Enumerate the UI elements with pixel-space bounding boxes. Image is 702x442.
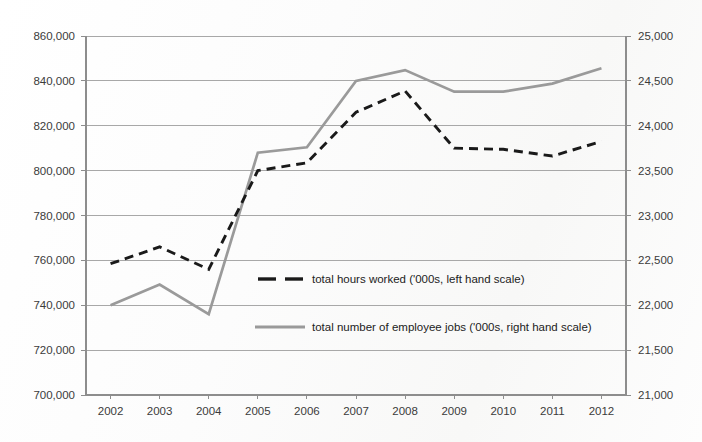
left-axis-tick-labels: 700,000720,000740,000760,000780,000800,0… — [33, 30, 75, 401]
x-axis-tick-label: 2008 — [392, 405, 418, 417]
x-axis-tick-label: 2012 — [589, 405, 615, 417]
x-axis-tick-label: 2002 — [98, 405, 124, 417]
left-axis-tick-label: 800,000 — [33, 165, 75, 177]
right-axis-tick-label: 25,000 — [638, 30, 673, 42]
legend-label-employee-jobs: total number of employee jobs ('000s, ri… — [312, 321, 592, 333]
x-axis-tick-label: 2006 — [294, 405, 320, 417]
left-axis-tick-label: 840,000 — [33, 75, 75, 87]
left-axis-tick-label: 780,000 — [33, 210, 75, 222]
x-axis-tick-label: 2004 — [196, 405, 222, 417]
right-axis-tick-label: 24,000 — [638, 120, 673, 132]
gridlines — [86, 36, 626, 395]
left-axis-tick-label: 700,000 — [33, 389, 75, 401]
right-axis-tick-label: 22,500 — [638, 254, 673, 266]
right-axis-tick-label: 22,000 — [638, 299, 673, 311]
x-axis-tick-label: 2009 — [441, 405, 467, 417]
right-axis-tick-label: 24,500 — [638, 75, 673, 87]
right-axis-tick-label: 23,000 — [638, 210, 673, 222]
series-line-hours-worked — [111, 91, 602, 269]
x-axis-tick-label: 2011 — [540, 405, 565, 417]
axis-tick-marks — [81, 36, 631, 399]
left-axis-tick-label: 740,000 — [33, 299, 75, 311]
x-axis-tick-label: 2007 — [343, 405, 369, 417]
x-axis-tick-label: 2003 — [147, 405, 173, 417]
x-axis-tick-label: 2005 — [245, 405, 271, 417]
dual-axis-line-chart: 700,000720,000740,000760,000780,000800,0… — [0, 0, 702, 442]
legend-label-hours-worked: total hours worked ('000s, left hand sca… — [312, 273, 525, 285]
x-axis-tick-label: 2010 — [490, 405, 516, 417]
right-axis-tick-label: 21,000 — [638, 389, 673, 401]
left-axis-tick-label: 720,000 — [33, 344, 75, 356]
right-axis-tick-labels: 21,00021,50022,00022,50023,00023,50024,0… — [638, 30, 673, 401]
x-axis-tick-labels: 2002200320042005200620072008200920102011… — [98, 405, 615, 417]
right-axis-tick-label: 21,500 — [638, 344, 673, 356]
chart-legend: total hours worked ('000s, left hand sca… — [255, 273, 592, 333]
left-axis-tick-label: 820,000 — [33, 120, 75, 132]
chart-container: 700,000720,000740,000760,000780,000800,0… — [0, 0, 702, 442]
left-axis-tick-label: 760,000 — [33, 254, 75, 266]
right-axis-tick-label: 23,500 — [638, 165, 673, 177]
left-axis-tick-label: 860,000 — [33, 30, 75, 42]
